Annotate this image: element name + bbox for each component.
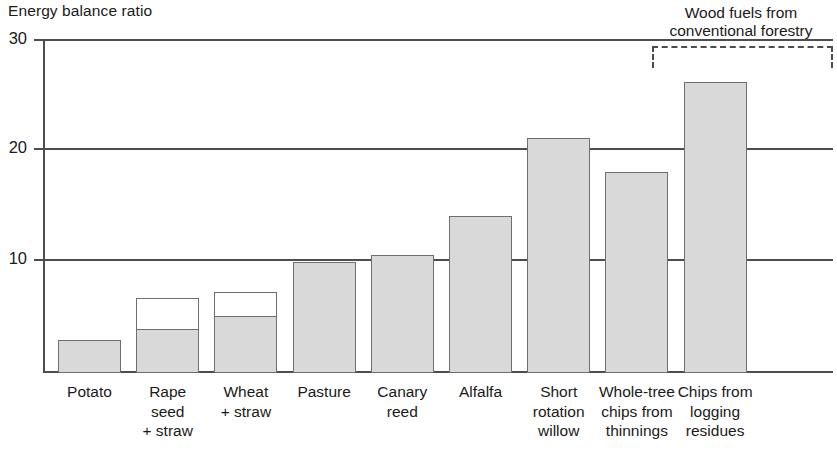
bar-segment-main bbox=[293, 262, 356, 373]
x-label-short-rotation-willow: Short rotation willow bbox=[520, 382, 597, 441]
x-label-pasture: Pasture bbox=[286, 382, 363, 402]
wood-fuels-annotation: Wood fuels from conventional forestry bbox=[645, 4, 837, 68]
y-axis-line bbox=[43, 39, 45, 373]
y-tick-label-30: 30 bbox=[9, 30, 27, 47]
bar-segment-main bbox=[527, 138, 590, 373]
bar-segment-main bbox=[214, 315, 277, 373]
bar-short-rotation-willow[interactable] bbox=[527, 138, 590, 373]
x-axis-labels: PotatoRape seed + strawWheat + strawPast… bbox=[43, 382, 837, 456]
bar-chips-from-logging-residues[interactable] bbox=[684, 82, 747, 373]
x-label-chips-from-logging-residues: Chips from logging residues bbox=[677, 382, 754, 441]
y-axis-title: Energy balance ratio bbox=[8, 2, 152, 20]
bar-canary-reed[interactable] bbox=[371, 255, 434, 373]
plot-area: 30 20 10 bbox=[43, 39, 833, 373]
bar-segment-straw bbox=[214, 292, 277, 317]
x-label-rape-seed-straw: Rape seed + straw bbox=[129, 382, 206, 441]
bar-segment-main bbox=[449, 216, 512, 373]
bar-segment-main bbox=[136, 328, 199, 373]
y-tick-label-20: 20 bbox=[9, 139, 27, 156]
x-label-wheat-straw: Wheat + straw bbox=[207, 382, 284, 421]
bar-potato[interactable] bbox=[58, 340, 121, 373]
x-label-potato: Potato bbox=[51, 382, 128, 402]
x-label-canary-reed: Canary reed bbox=[364, 382, 441, 421]
bar-segment-straw bbox=[136, 298, 199, 330]
wood-fuels-annotation-line1: Wood fuels from bbox=[645, 4, 837, 22]
bar-segment-main bbox=[58, 340, 121, 373]
bracket-leg-left bbox=[652, 46, 654, 68]
y-tick-label-10: 10 bbox=[9, 250, 27, 267]
bar-segment-main bbox=[371, 255, 434, 373]
bar-rape-seed-straw[interactable] bbox=[136, 298, 199, 373]
bar-pasture[interactable] bbox=[293, 262, 356, 373]
bracket-top-line bbox=[652, 46, 833, 48]
bar-whole-tree-chips-from-thinnings[interactable] bbox=[605, 172, 668, 374]
wood-fuels-dashed-bracket bbox=[645, 46, 837, 68]
bar-alfalfa[interactable] bbox=[449, 216, 512, 373]
bar-segment-main bbox=[605, 172, 668, 374]
tick-20 bbox=[34, 148, 43, 150]
energy-balance-ratio-chart: Energy balance ratio 30 20 10 Wood fuels… bbox=[0, 0, 837, 456]
bar-wheat-straw[interactable] bbox=[214, 292, 277, 373]
x-label-whole-tree-chips-from-thinnings: Whole-tree chips from thinnings bbox=[598, 382, 675, 441]
x-label-alfalfa: Alfalfa bbox=[442, 382, 519, 402]
bracket-leg-right bbox=[831, 46, 833, 68]
tick-10 bbox=[34, 259, 43, 261]
bar-segment-main bbox=[684, 82, 747, 373]
wood-fuels-annotation-line2: conventional forestry bbox=[645, 22, 837, 40]
tick-30 bbox=[34, 39, 43, 41]
